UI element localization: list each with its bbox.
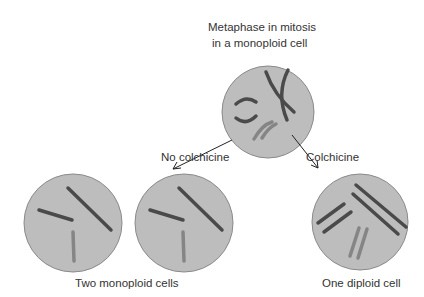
no-colchicine-label: No colchicine bbox=[161, 150, 229, 164]
two-monoploid-caption: Two monoploid cells bbox=[75, 276, 179, 290]
diploid-cell bbox=[312, 174, 408, 270]
title-line-2: in a monoploid cell bbox=[212, 36, 307, 50]
one-diploid-caption: One diploid cell bbox=[322, 276, 401, 290]
monoploid-cell-1 bbox=[24, 174, 122, 272]
metaphase-cell bbox=[222, 66, 314, 158]
monoploid-cell-2 bbox=[135, 174, 233, 272]
colchicine-label: Colchicine bbox=[306, 150, 359, 164]
title-line-1: Metaphase in mitosis bbox=[208, 20, 316, 34]
